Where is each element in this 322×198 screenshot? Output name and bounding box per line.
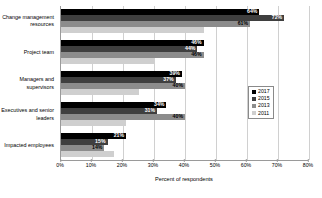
legend-swatch-icon <box>252 97 256 101</box>
legend: 2017 2015 2013 2011 <box>248 86 274 119</box>
bar-groups: 64%72%61%46%44%46%39%37%40%34%31%40%21%1… <box>61 6 308 160</box>
tick-mark <box>184 159 185 162</box>
x-axis-title: Percent of respondents <box>60 176 308 182</box>
bar[interactable] <box>61 58 154 64</box>
bar-group: 21%15%14% <box>61 132 308 158</box>
bar-value-label: 34% <box>154 102 164 107</box>
legend-label: 2011 <box>258 111 269 116</box>
tick-mark <box>215 159 216 162</box>
y-axis-label: Change management resources <box>0 8 58 34</box>
bar-value-label: 14% <box>92 145 102 150</box>
legend-item[interactable]: 2017 <box>252 89 270 94</box>
tick-mark <box>60 159 61 162</box>
bar[interactable] <box>61 89 139 95</box>
bar-value-label: 40% <box>173 83 183 88</box>
legend-item[interactable]: 2013 <box>252 103 270 108</box>
x-axis-tick-label: 70% <box>272 162 282 168</box>
bar[interactable] <box>61 151 114 157</box>
tick-mark <box>91 159 92 162</box>
plot-area: 64%72%61%46%44%46%39%37%40%34%31%40%21%1… <box>60 6 308 161</box>
tick-mark <box>246 159 247 162</box>
y-axis-label: Executives and senior leaders <box>0 102 58 128</box>
x-axis-tick-label: 10% <box>86 162 96 168</box>
bar-value-label: 72% <box>272 15 282 20</box>
x-axis-tick-label: 40% <box>179 162 189 168</box>
x-axis-tick-label: 20% <box>117 162 127 168</box>
y-axis-label: Managers and supervisors <box>0 71 58 97</box>
bar-value-label: 21% <box>114 133 124 138</box>
x-axis-tick-label: 30% <box>148 162 158 168</box>
x-axis-tick-label: 80% <box>303 162 313 168</box>
bar-row <box>61 27 308 33</box>
gridline <box>309 6 310 160</box>
legend-label: 2017 <box>258 89 270 94</box>
bar-row <box>61 58 308 64</box>
x-axis-tick-label: 0% <box>56 162 64 168</box>
x-axis-tick-label: 50% <box>210 162 220 168</box>
bar-row <box>61 151 308 157</box>
legend-item[interactable]: 2015 <box>252 96 270 101</box>
legend-label: 2013 <box>258 103 270 108</box>
legend-swatch-icon <box>252 90 256 94</box>
bar-group: 46%44%46% <box>61 39 308 65</box>
legend-label: 2015 <box>258 96 270 101</box>
x-axis-ticks: 0%10%20%30%40%50%60%70%80% <box>60 162 308 172</box>
tick-mark <box>277 159 278 162</box>
legend-swatch-icon <box>252 111 256 115</box>
legend-item[interactable]: 2011 <box>252 111 270 116</box>
bar-row <box>61 120 308 126</box>
y-axis-label: Project team <box>0 39 58 65</box>
tick-mark <box>122 159 123 162</box>
bar-group: 64%72%61% <box>61 8 308 34</box>
bar[interactable] <box>61 120 126 126</box>
bar-value-label: 61% <box>238 21 248 26</box>
bar-value-label: 64% <box>247 9 257 14</box>
tick-mark <box>153 159 154 162</box>
bar-value-label: 40% <box>173 114 183 119</box>
bar-value-label: 46% <box>191 52 201 57</box>
tick-mark <box>308 159 309 162</box>
y-axis-label: Impacted employees <box>0 133 58 159</box>
bar-chart: Change management resources Project team… <box>0 0 322 198</box>
bar[interactable] <box>61 27 204 33</box>
bar-value-label: 31% <box>145 108 155 113</box>
legend-swatch-icon <box>252 104 256 108</box>
y-axis-category-labels: Change management resources Project team… <box>0 6 58 161</box>
x-axis-tick-label: 60% <box>241 162 251 168</box>
